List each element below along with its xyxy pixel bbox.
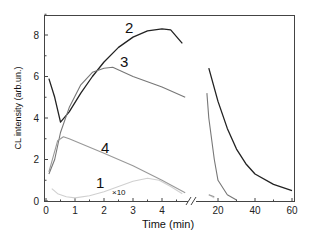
x-tick-label: 0 (43, 205, 49, 216)
curve-label-4: 4 (101, 139, 109, 156)
x-axis-label: Time (min) (142, 218, 194, 230)
x-tick-label: 1 (72, 205, 78, 216)
curve-4 (49, 137, 185, 193)
x-tick-label: 2 (101, 205, 107, 216)
curve-3 (49, 67, 185, 174)
y-tick-label: 2 (33, 154, 39, 165)
curve-label-3: 3 (120, 53, 128, 70)
curve-2 (209, 68, 292, 190)
x-ticks: 01234204060 (43, 198, 298, 216)
x-tick-label: 4 (159, 205, 165, 216)
y-tick-label: 0 (33, 196, 39, 207)
x-tick-label: 60 (286, 205, 298, 216)
x-tick-label: 20 (212, 205, 224, 216)
y-axis-label: CL intensity (arb.un.) (13, 66, 23, 149)
plot-frame (45, 16, 295, 202)
chart: 02468 01234204060 2 3 4 1 ×10 Time (min)… (0, 0, 312, 242)
curve-3 (207, 93, 237, 200)
y-tick-label: 8 (33, 30, 39, 41)
curve-label-2: 2 (125, 19, 133, 36)
y-tick-label: 4 (33, 113, 39, 124)
curve-1-scale-label: ×10 (112, 188, 126, 197)
x-tick-label: 40 (249, 205, 261, 216)
y-tick-label: 6 (33, 71, 39, 82)
x-tick-label: 3 (130, 205, 136, 216)
curves (49, 29, 292, 200)
curve-label-1: 1 (96, 174, 104, 191)
y-ticks: 02468 (33, 14, 48, 206)
